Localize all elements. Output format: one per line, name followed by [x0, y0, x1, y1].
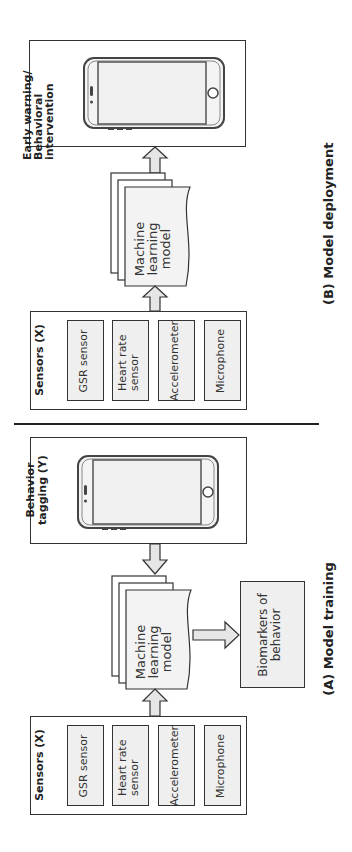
sensors-title: Sensors (X)	[34, 320, 48, 400]
behavior-tagging-title: Behavior tagging (Y)	[25, 442, 51, 538]
sensors-title: Sensors (X)	[34, 725, 48, 805]
early-warning-title: Early warning/ Behavioral intervention	[22, 50, 58, 160]
sensor-accelerometer-label: Accelerometer	[169, 726, 183, 806]
caption-model-training: (A) Model training	[321, 559, 339, 699]
sensor-accelerometer-label: Accelerometer	[169, 321, 183, 401]
arrow-right-icon	[192, 621, 240, 649]
smartphone-icon	[83, 57, 225, 129]
sensor-microphone-label: Microphone	[215, 321, 229, 401]
sensor-heart-rate-label: Heart rate sensor	[117, 331, 143, 391]
ml-model-label: Machine learning model	[133, 204, 173, 294]
sensor-heart-rate-label: Heart rate sensor	[117, 736, 143, 796]
arrow-up-icon	[142, 146, 168, 174]
panel-divider	[14, 423, 319, 425]
caption-model-deployment: (B) Model deployment	[321, 145, 339, 305]
biomarkers-label: Biomarkers of behavior	[257, 589, 287, 681]
sensor-gsr-label: GSR sensor	[78, 726, 92, 806]
sensor-gsr-label: GSR sensor	[78, 321, 92, 401]
ml-model-label: Machine learning model	[134, 607, 174, 697]
arrow-up-icon	[142, 688, 168, 717]
sensor-microphone-label: Microphone	[215, 726, 229, 806]
arrow-down-icon	[142, 543, 168, 575]
smartphone-icon	[77, 455, 219, 529]
arrow-up-icon	[142, 285, 168, 312]
